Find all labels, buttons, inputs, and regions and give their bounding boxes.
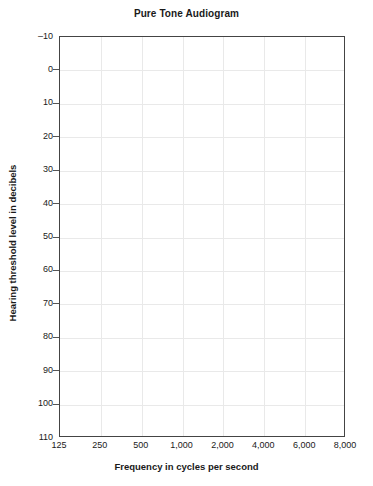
grid-layer <box>60 37 344 436</box>
y-tick-label: 70 <box>24 299 53 308</box>
x-tick-label: 4,000 <box>241 441 285 450</box>
gridline-horizontal <box>60 104 344 105</box>
gridline-horizontal <box>60 405 344 406</box>
chart-title: Pure Tone Audiogram <box>0 8 373 19</box>
gridline-vertical <box>223 37 224 436</box>
gridline-vertical <box>183 37 184 436</box>
y-tick-label: –10 <box>24 32 53 41</box>
x-tick-label: 125 <box>37 441 81 450</box>
y-tick-label: 100 <box>24 399 53 408</box>
y-axis-title-wrap: Hearing threshold level in decibels <box>0 0 24 486</box>
y-tick-label: 20 <box>24 132 53 141</box>
gridline-vertical <box>142 37 143 436</box>
x-tick-label: 6,000 <box>282 441 326 450</box>
x-tick-label: 1,000 <box>160 441 204 450</box>
gridline-horizontal <box>60 338 344 339</box>
y-tick-label: 0 <box>24 65 53 74</box>
gridline-vertical <box>264 37 265 436</box>
y-tick-label: 90 <box>24 366 53 375</box>
y-tick-label: 60 <box>24 265 53 274</box>
gridline-vertical <box>305 37 306 436</box>
gridline-horizontal <box>60 304 344 305</box>
plot-area <box>59 36 345 437</box>
x-tick-label: 500 <box>119 441 163 450</box>
y-tick-label: 10 <box>24 98 53 107</box>
audiogram-figure: Pure Tone Audiogram –1001020304050607080… <box>0 0 373 486</box>
y-tick-label: 30 <box>24 165 53 174</box>
gridline-horizontal <box>60 271 344 272</box>
gridline-horizontal <box>60 137 344 138</box>
gridline-horizontal <box>60 204 344 205</box>
y-tick-label: 110 <box>24 433 53 442</box>
gridline-horizontal <box>60 238 344 239</box>
x-tick-label: 8,000 <box>323 441 367 450</box>
y-tick-label: 80 <box>24 332 53 341</box>
gridline-horizontal <box>60 70 344 71</box>
x-tick-label: 250 <box>78 441 122 450</box>
y-tick-label: 50 <box>24 232 53 241</box>
x-tick-label: 2,000 <box>200 441 244 450</box>
y-axis-title: Hearing threshold level in decibels <box>7 165 18 322</box>
gridline-horizontal <box>60 371 344 372</box>
y-tick-label: 40 <box>24 199 53 208</box>
x-axis-title: Frequency in cycles per second <box>0 461 373 472</box>
gridline-vertical <box>101 37 102 436</box>
gridline-horizontal <box>60 171 344 172</box>
